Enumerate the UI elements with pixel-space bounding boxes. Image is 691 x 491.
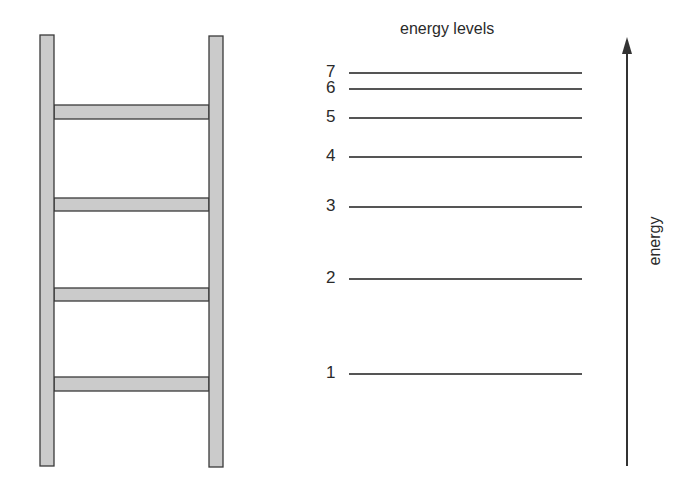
ladder-rail-left — [40, 35, 54, 466]
ladder-rung — [54, 198, 209, 211]
ladder — [40, 35, 223, 467]
ladder-rung — [54, 377, 209, 391]
level-number-label: 5 — [326, 108, 335, 125]
diagram-canvas — [0, 0, 691, 491]
level-number-label: 3 — [326, 197, 335, 214]
ladder-rung — [54, 105, 209, 119]
energy-arrow-icon — [622, 37, 632, 466]
level-number-label: 2 — [326, 269, 335, 286]
ladder-rail-right — [209, 36, 223, 467]
energy-levels-title: energy levels — [400, 20, 494, 38]
level-number-label: 4 — [326, 147, 335, 164]
level-number-label: 1 — [326, 364, 335, 381]
level-number-label: 6 — [326, 79, 335, 96]
energy-axis-label: energy — [646, 214, 664, 268]
ladder-rung — [54, 288, 209, 301]
energy-level-lines — [349, 73, 582, 374]
